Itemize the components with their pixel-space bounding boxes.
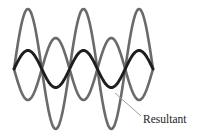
resultant-label: Resultant: [143, 113, 186, 125]
component-wave-large: [14, 9, 153, 129]
component-wave-small: [14, 38, 153, 100]
resultant-wave: [14, 51, 153, 88]
